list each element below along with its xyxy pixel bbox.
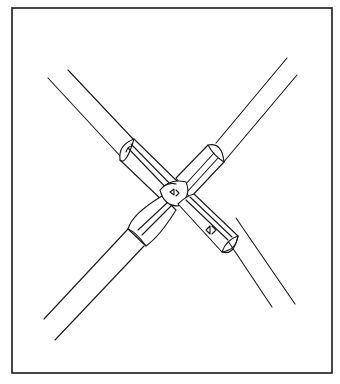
pipe-cross-coupling-drawing (0, 0, 340, 384)
sleeve-lower-right (178, 194, 238, 253)
